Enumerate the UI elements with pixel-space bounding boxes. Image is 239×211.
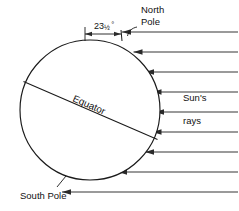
suns-rays-label-group: Sun's rays	[183, 92, 207, 126]
diagram-canvas: 23½° North Pole Equator South Pole Sun's…	[0, 0, 239, 211]
svg-text:23½°: 23½°	[94, 20, 114, 31]
south-pole-leader-line	[57, 176, 66, 187]
angle-degree-symbol: °	[111, 20, 114, 29]
earth-tilt-diagram: 23½° North Pole Equator South Pole Sun's…	[0, 0, 239, 211]
angle-fraction: ½	[104, 24, 110, 31]
angle-label: 23½°	[94, 20, 114, 31]
ray-arrowhead-1	[122, 29, 131, 34]
south-pole-label: South Pole	[20, 190, 66, 201]
south-pole-label-group: South Pole	[20, 176, 66, 201]
ray-line-2	[134, 49, 239, 54]
north-pole-label-group: North Pole	[128, 4, 165, 36]
north-pole-label-line1: North	[141, 4, 164, 15]
dimension-arrowhead-right	[114, 32, 121, 37]
north-pole-axis-tick	[121, 30, 122, 41]
ray-line-5	[155, 109, 238, 114]
ray-arrowhead-2	[134, 49, 143, 54]
ray-line-8	[118, 169, 238, 174]
ray-line-1	[122, 29, 238, 34]
suns-rays-label-line2: rays	[183, 115, 201, 126]
ray-line-3	[145, 69, 238, 74]
dimension-arrowhead-left	[85, 32, 92, 37]
ray-line-6	[153, 129, 239, 134]
angle-whole-number: 23	[94, 21, 104, 31]
suns-rays-label-line1: Sun's	[183, 92, 207, 103]
north-pole-label-line2: Pole	[141, 16, 160, 27]
north-pole-leader-line	[128, 27, 138, 36]
ray-line-9	[62, 189, 238, 194]
ray-line-7	[145, 149, 238, 154]
